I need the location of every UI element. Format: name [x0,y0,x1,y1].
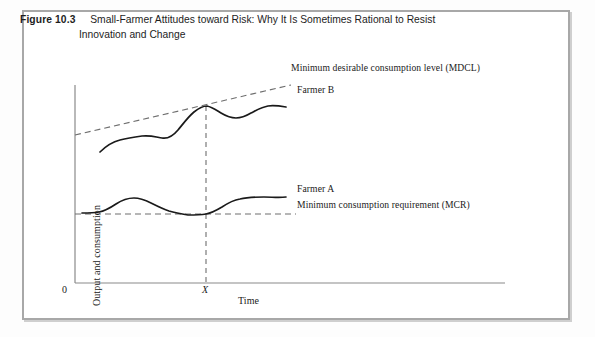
origin-tick-label: 0 [62,284,67,295]
farmer-a-annotation-label: Farmer A [297,183,334,194]
y-axis-label: Output and consumption [91,191,102,321]
page-background: Figure 10.3 Small-Farmer Attitudes towar… [0,0,595,337]
chart-plot-area: Minimum desirable consumption level (MDC… [0,0,595,337]
y-axis-label-wrapper: Output and consumption [55,100,71,230]
chart-svg [0,0,595,337]
x-tick-label: X [202,284,208,295]
mdcl-annotation-label: Minimum desirable consumption level (MDC… [291,62,480,73]
farmer-a-curve [82,197,286,215]
farmer-b-annotation-label: Farmer B [297,84,334,95]
x-axis-label: Time [238,295,259,306]
mcr-annotation-label: Minimum consumption requirement (MCR) [297,199,470,210]
farmer-b-curve [100,106,286,152]
